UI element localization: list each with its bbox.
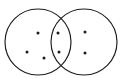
venn-dots-group [26,31,87,60]
venn-dot-right-only-6 [84,31,87,34]
venn-circle-right [51,9,117,75]
venn-circles-group [5,9,117,75]
venn-diagram-figure [0,0,122,82]
venn-dot-intersection-5 [58,51,61,54]
venn-dot-left-only-1 [37,32,40,35]
venn-dot-right-only-7 [84,52,87,55]
venn-dot-left-only-2 [26,51,29,54]
venn-diagram-canvas [0,0,122,82]
venn-dot-left-only-3 [43,57,46,60]
venn-dot-intersection-4 [57,32,60,35]
